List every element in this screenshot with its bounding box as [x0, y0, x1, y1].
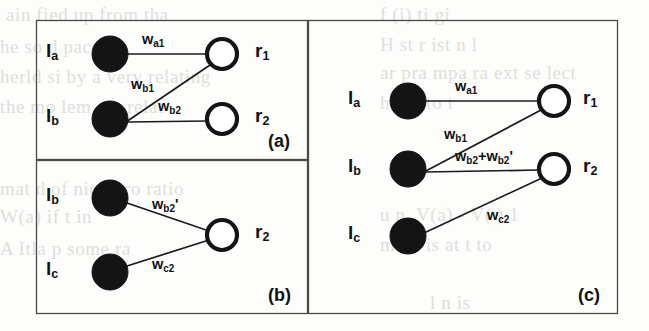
- panel-c-label-l-a: la: [348, 87, 360, 110]
- panel-c-edge-lc-r2: [424, 178, 542, 233]
- panel-c-node-r-1: [539, 86, 569, 116]
- panel-b-weight-edge-lc-r2: wc2: [152, 256, 174, 274]
- panel-b-weight-edge-lb-r2: wb2': [152, 196, 178, 214]
- panel-a-label-r-2: r2: [255, 105, 269, 128]
- panel-b-node-l-c: [92, 254, 128, 290]
- panel-a-label-l-b: lb: [46, 105, 59, 128]
- panel-c-label-l-b: lb: [348, 155, 361, 178]
- panel-a-weight-edge-la-r1: wa1: [142, 31, 164, 49]
- panel-c-node-l-b: [390, 151, 426, 187]
- panel-tag-panel-b: (b): [268, 285, 291, 306]
- panel-c-node-l-c: [390, 218, 426, 254]
- panel-c-weight-edge-lb-r1: wb1: [444, 126, 467, 144]
- figure-root: ain fied up from thahe so d pacesherld s…: [0, 0, 649, 331]
- panel-c-node-r-2: [539, 154, 569, 184]
- panel-a-node-r-1: [207, 39, 237, 69]
- panel-tag-panel-c: (c): [578, 285, 600, 306]
- panel-tag-panel-a: (a): [268, 131, 290, 152]
- panel-a-edge-lb-r2: [128, 121, 207, 122]
- panel-a-weight-edge-lb-r2: wb2: [158, 98, 181, 116]
- diagram-canvas: [0, 0, 649, 331]
- panel-c-label-r-1: r1: [583, 87, 597, 110]
- panel-a-node-l-b: [92, 101, 128, 137]
- panel-a-weight-edge-lb-r1: wb1: [131, 76, 154, 94]
- panel-c-weight-edge-lb-r2: wb2+wb2': [455, 148, 513, 166]
- panel-b-label-r-2: r2: [255, 221, 269, 244]
- panel-c-weight-edge-lc-r2: wc2: [487, 207, 509, 225]
- panel-a-label-r-1: r1: [255, 40, 269, 63]
- panel-c-edge-lb-r2: [426, 170, 539, 172]
- panel-a-node-r-2: [207, 104, 237, 134]
- panel-b-label-l-b: lb: [46, 184, 59, 207]
- panel-a-node-l-a: [92, 36, 128, 72]
- panel-b-node-l-b: [92, 180, 128, 216]
- panel-c-label-r-2: r2: [583, 155, 597, 178]
- panel-b-node-r-2: [207, 220, 237, 250]
- panel-c-label-l-c: lc: [348, 222, 360, 245]
- panel-c-weight-edge-la-r1: wa1: [455, 78, 477, 96]
- panel-b-label-l-c: lc: [46, 258, 58, 281]
- panel-c-node-l-a: [390, 83, 426, 119]
- panel-a-label-l-a: la: [46, 40, 58, 63]
